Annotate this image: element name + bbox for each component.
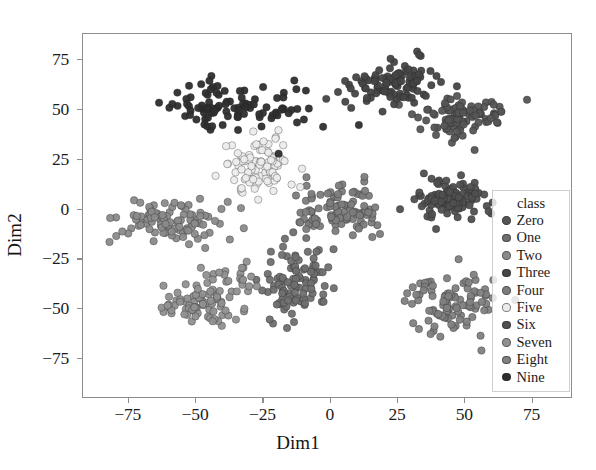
series-one bbox=[253, 229, 338, 332]
scatter-plot-figure: Dim1 Dim2 class ZeroOneTwoThreeFourFiveS… bbox=[0, 0, 596, 470]
y-tick-mark bbox=[77, 159, 82, 160]
y-tick-mark bbox=[77, 59, 82, 60]
legend-item-label: One bbox=[517, 229, 541, 246]
y-tick-label: −25 bbox=[42, 248, 69, 269]
legend-items: ZeroOneTwoThreeFourFiveSixSevenEightNine bbox=[498, 212, 564, 386]
legend-item-label: Three bbox=[517, 264, 551, 281]
x-tick-mark bbox=[330, 398, 331, 403]
x-tick-mark bbox=[195, 398, 196, 403]
legend-item-label: Six bbox=[517, 316, 536, 333]
legend-item-label: Eight bbox=[517, 351, 548, 368]
x-tick-label: −50 bbox=[182, 404, 209, 425]
y-axis-label: Dim2 bbox=[2, 0, 28, 470]
legend-item-label: Zero bbox=[517, 212, 544, 229]
legend-item-one[interactable]: One bbox=[498, 229, 564, 246]
legend-swatch-icon bbox=[502, 373, 511, 382]
x-axis-label: Dim1 bbox=[0, 432, 596, 454]
x-tick-label: 75 bbox=[523, 404, 540, 425]
x-tick-label: 50 bbox=[456, 404, 473, 425]
legend-swatch-icon bbox=[502, 286, 511, 295]
legend-swatch-icon bbox=[502, 338, 511, 347]
series-six bbox=[396, 170, 496, 233]
series-two bbox=[106, 195, 248, 252]
legend-swatch-icon bbox=[502, 216, 511, 225]
legend-item-six[interactable]: Six bbox=[498, 316, 564, 333]
y-tick-label: 50 bbox=[52, 98, 69, 119]
legend-item-label: Nine bbox=[517, 369, 545, 386]
y-tick-mark bbox=[77, 209, 82, 210]
x-tick-mark bbox=[262, 398, 263, 403]
x-tick-label: −75 bbox=[114, 404, 141, 425]
y-tick-label: 25 bbox=[52, 148, 69, 169]
x-tick-mark bbox=[128, 398, 129, 403]
series-five bbox=[212, 127, 306, 204]
legend-item-zero[interactable]: Zero bbox=[498, 212, 564, 229]
y-tick-mark bbox=[77, 308, 82, 309]
legend-item-seven[interactable]: Seven bbox=[498, 334, 564, 351]
y-tick-label: −50 bbox=[42, 298, 69, 319]
x-tick-label: 0 bbox=[325, 404, 334, 425]
x-tick-mark bbox=[397, 398, 398, 403]
series-four bbox=[292, 173, 383, 241]
legend-item-label: Four bbox=[517, 282, 544, 299]
x-tick-label: −25 bbox=[249, 404, 276, 425]
x-tick-mark bbox=[532, 398, 533, 403]
legend-item-five[interactable]: Five bbox=[498, 299, 564, 316]
legend-item-label: Seven bbox=[517, 334, 552, 351]
legend-item-four[interactable]: Four bbox=[498, 282, 564, 299]
y-tick-mark bbox=[77, 358, 82, 359]
legend-item-eight[interactable]: Eight bbox=[498, 351, 564, 368]
legend-item-three[interactable]: Three bbox=[498, 264, 564, 281]
legend: class ZeroOneTwoThreeFourFiveSixSevenEig… bbox=[492, 190, 570, 392]
x-tick-label: 25 bbox=[388, 404, 405, 425]
y-tick-label: −75 bbox=[42, 348, 69, 369]
legend-item-two[interactable]: Two bbox=[498, 247, 564, 264]
legend-swatch-icon bbox=[502, 356, 511, 365]
legend-swatch-icon bbox=[502, 321, 511, 330]
y-tick-label: 75 bbox=[52, 48, 69, 69]
y-tick-mark bbox=[77, 109, 82, 110]
y-tick-mark bbox=[77, 258, 82, 259]
legend-title: class bbox=[498, 195, 564, 211]
x-tick-mark bbox=[464, 398, 465, 403]
y-tick-label: 0 bbox=[60, 198, 69, 219]
legend-swatch-icon bbox=[502, 303, 511, 312]
series-seven bbox=[158, 258, 261, 330]
legend-item-label: Two bbox=[517, 247, 543, 264]
series-three bbox=[323, 48, 461, 116]
legend-item-nine[interactable]: Nine bbox=[498, 369, 564, 386]
legend-swatch-icon bbox=[502, 269, 511, 278]
legend-swatch-icon bbox=[502, 251, 511, 260]
legend-item-label: Five bbox=[517, 299, 543, 316]
legend-swatch-icon bbox=[502, 234, 511, 243]
